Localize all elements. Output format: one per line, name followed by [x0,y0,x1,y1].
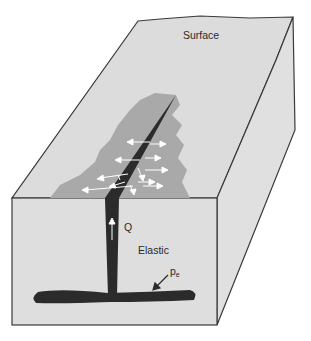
surface-label: Surface [183,30,219,41]
pressure-label: pe [170,266,180,278]
elastic-label: Elastic [138,245,169,256]
pressure-subscript: e [176,271,180,278]
block-diagram [0,0,311,341]
flux-label: Q [124,222,132,233]
